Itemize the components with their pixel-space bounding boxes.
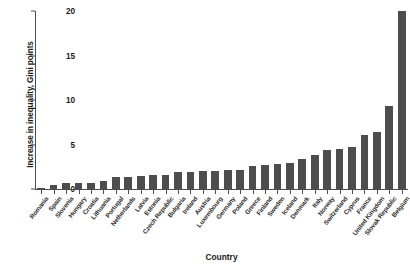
x-tick-mark [352, 190, 353, 194]
x-tick-mark [178, 190, 179, 194]
x-tick-mark [228, 190, 229, 194]
bar [187, 172, 195, 189]
x-tick-mark [215, 190, 216, 194]
x-tick-mark [389, 190, 390, 194]
bar [224, 170, 232, 189]
x-tick-mark [240, 190, 241, 194]
x-tick-mark [54, 190, 55, 194]
x-tick-mark [103, 190, 104, 194]
x-tick-mark [340, 190, 341, 194]
x-tick-mark [166, 190, 167, 194]
bar [261, 165, 269, 189]
x-tick-mark [128, 190, 129, 194]
x-tick-mark [79, 190, 80, 194]
x-tick-mark [66, 190, 67, 194]
x-tick-mark [364, 190, 365, 194]
x-axis-title: Country [35, 252, 408, 262]
bar [149, 175, 157, 189]
bar [199, 171, 207, 189]
bar [361, 135, 369, 189]
bar [137, 176, 145, 189]
x-tick-mark [190, 190, 191, 194]
bar [286, 163, 294, 189]
x-tick-mark [290, 190, 291, 194]
bar [274, 164, 282, 189]
bar [162, 175, 170, 189]
x-tick-mark [277, 190, 278, 194]
bar-chart: Increase in inequality, Gini points 0510… [0, 0, 410, 274]
x-tick-mark [116, 190, 117, 194]
bar [236, 170, 244, 189]
x-tick-mark [315, 190, 316, 194]
bar [323, 150, 331, 189]
bar [298, 159, 306, 189]
y-axis-title: Increase in inequality, Gini points [26, 17, 35, 193]
x-tick-mark [203, 190, 204, 194]
bar [373, 132, 381, 189]
bar [174, 172, 182, 189]
bar [336, 149, 344, 189]
plot-area [35, 11, 408, 189]
x-tick-mark [41, 190, 42, 194]
bar [124, 177, 132, 189]
x-tick-mark [302, 190, 303, 194]
bar [249, 166, 257, 189]
x-tick-mark [327, 190, 328, 194]
bar [385, 106, 393, 189]
x-tick-mark [91, 190, 92, 194]
x-tick-mark [153, 190, 154, 194]
x-tick-mark [253, 190, 254, 194]
bar [348, 147, 356, 189]
bar [311, 155, 319, 189]
bar [211, 171, 219, 189]
x-tick-mark [402, 190, 403, 194]
x-tick-mark [377, 190, 378, 194]
bar [398, 11, 406, 189]
x-tick-mark [265, 190, 266, 194]
bar [100, 181, 108, 189]
bar [112, 177, 120, 189]
x-tick-mark [141, 190, 142, 194]
